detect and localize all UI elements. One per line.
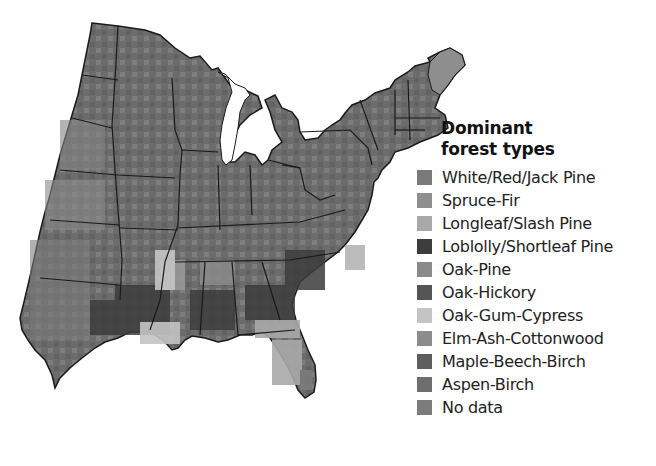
legend-item: Oak-Hickory [417,281,656,304]
legend-label: Oak-Hickory [442,283,536,302]
legend-label: Maple-Beech-Birch [442,352,586,371]
legend-item: White/Red/Jack Pine [417,166,656,189]
legend-swatch-elm-ash-cottonwood [417,331,432,346]
legend-label: Oak-Gum-Cypress [442,306,583,325]
legend-item: Loblolly/Shortleaf Pine [417,235,656,258]
legend-item: Maple-Beech-Birch [417,350,656,373]
legend-item: No data [417,396,656,419]
legend-label: Spruce-Fir [442,191,520,210]
legend-swatch-white-red-jack-pine [417,170,432,185]
map-legend: Dominant forest types White/Red/Jack Pin… [417,118,656,419]
legend-swatch-oak-hickory [417,285,432,300]
legend-swatch-spruce-fir [417,193,432,208]
legend-label: White/Red/Jack Pine [442,168,595,187]
legend-label: Aspen-Birch [442,375,534,394]
legend-label: Longleaf/Slash Pine [442,214,592,233]
legend-swatch-no-data [417,400,432,415]
legend-item: Oak-Pine [417,258,656,281]
legend-swatch-longleaf-slash-pine [417,216,432,231]
legend-item: Oak-Gum-Cypress [417,304,656,327]
legend-label: Elm-Ash-Cottonwood [442,329,604,348]
legend-label: No data [442,398,503,417]
legend-item: Elm-Ash-Cottonwood [417,327,656,350]
legend-swatch-loblolly-shortleaf-pine [417,239,432,254]
legend-item: Spruce-Fir [417,189,656,212]
legend-item: Aspen-Birch [417,373,656,396]
legend-label: Loblolly/Shortleaf Pine [442,237,613,256]
legend-swatch-aspen-birch [417,377,432,392]
legend-swatch-oak-pine [417,262,432,277]
legend-swatch-maple-beech-birch [417,354,432,369]
legend-label: Oak-Pine [442,260,511,279]
legend-item: Longleaf/Slash Pine [417,212,656,235]
legend-title-line1: Dominant [441,118,656,139]
legend-swatch-oak-gum-cypress [417,308,432,323]
legend-title-line2: forest types [441,139,656,160]
